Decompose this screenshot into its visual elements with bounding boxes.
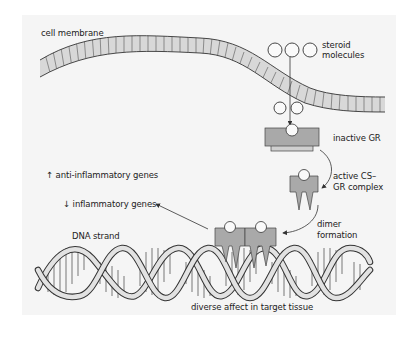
steroid-label-line2: molecules bbox=[322, 50, 364, 61]
inactive-gr-label: inactive GR bbox=[333, 133, 381, 144]
dimer-label-line2: formation bbox=[317, 230, 357, 241]
active-cs-gr-complex bbox=[290, 170, 318, 211]
active-complex-label-line1: active CS– bbox=[333, 171, 376, 182]
inactive-gr-receptor bbox=[265, 124, 319, 151]
cell-membrane-label: cell membrane bbox=[41, 28, 104, 39]
steroid-molecules bbox=[268, 43, 317, 57]
inflammatory-label: ↓ inflammatory genes bbox=[63, 199, 156, 210]
dimer-arrow bbox=[283, 205, 318, 233]
dna-double-helix bbox=[38, 248, 370, 298]
active-complex-label-line2: GR complex bbox=[333, 182, 383, 193]
dimer-label-line1: dimer bbox=[317, 219, 341, 230]
anti-inflammatory-label: ↑ anti-inflammatory genes bbox=[46, 170, 158, 181]
activation-arrow bbox=[320, 150, 332, 188]
dna-strand-label: DNA strand bbox=[72, 231, 120, 242]
gene-effect-arrow bbox=[156, 204, 208, 229]
diverse-affect-label: diverse affect in target tissue bbox=[191, 302, 313, 313]
steroid-molecules-inside bbox=[274, 102, 303, 114]
